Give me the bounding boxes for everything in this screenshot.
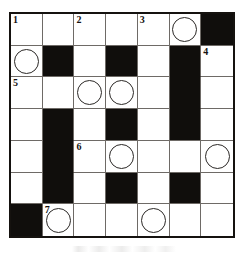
grid-cell[interactable] — [170, 204, 202, 236]
grid-cell[interactable] — [11, 46, 43, 78]
grid-cell-block — [201, 14, 233, 46]
circle-icon — [141, 208, 166, 233]
grid-cell[interactable] — [74, 204, 106, 236]
grid-cell[interactable] — [74, 109, 106, 141]
caption-smudge — [72, 246, 176, 252]
grid-cell-block — [11, 204, 43, 236]
grid-cell[interactable] — [201, 173, 233, 205]
grid-cell-block — [43, 109, 75, 141]
grid-cell[interactable]: 4 — [201, 46, 233, 78]
grid-cell-block — [170, 173, 202, 205]
crossword-grid[interactable]: 1234567 — [9, 12, 235, 238]
grid-cell[interactable]: 5 — [11, 77, 43, 109]
grid-cell[interactable] — [106, 77, 138, 109]
grid-cell[interactable] — [11, 109, 43, 141]
grid-cell[interactable] — [138, 141, 170, 173]
grid-cell-block — [170, 109, 202, 141]
grid-cell[interactable] — [74, 46, 106, 78]
cell-number: 2 — [76, 14, 81, 25]
grid-cell[interactable] — [74, 173, 106, 205]
grid-cell[interactable]: 6 — [74, 141, 106, 173]
cell-number: 1 — [13, 14, 18, 25]
cell-number: 4 — [203, 46, 208, 57]
grid-cell[interactable] — [138, 173, 170, 205]
grid-cell[interactable]: 3 — [138, 14, 170, 46]
grid-cell[interactable] — [201, 109, 233, 141]
circle-icon — [77, 80, 102, 105]
grid-cell[interactable] — [138, 77, 170, 109]
grid-cell[interactable]: 1 — [11, 14, 43, 46]
grid-cell-block — [106, 173, 138, 205]
grid-cell-block — [170, 77, 202, 109]
grid-cell-block — [43, 173, 75, 205]
grid-cell[interactable] — [106, 141, 138, 173]
grid-cell[interactable] — [43, 14, 75, 46]
grid-cell[interactable] — [170, 14, 202, 46]
grid-cell[interactable] — [201, 141, 233, 173]
circle-icon — [14, 49, 39, 74]
cell-number: 6 — [76, 141, 81, 152]
grid-cell-block — [106, 46, 138, 78]
circle-icon — [205, 144, 230, 169]
grid-cell[interactable] — [43, 77, 75, 109]
grid-cell[interactable] — [106, 204, 138, 236]
circle-icon — [109, 144, 134, 169]
grid-cell[interactable] — [170, 141, 202, 173]
circle-icon — [172, 17, 197, 42]
grid-cell[interactable] — [201, 77, 233, 109]
grid-cell-block — [43, 141, 75, 173]
grid-cell[interactable] — [138, 204, 170, 236]
grid-cell[interactable] — [138, 46, 170, 78]
grid-cell[interactable] — [11, 141, 43, 173]
cell-number: 7 — [45, 204, 50, 215]
grid-cell-block — [106, 109, 138, 141]
grid-cell-block — [170, 46, 202, 78]
cell-number: 3 — [140, 14, 145, 25]
grid-cell-block — [43, 46, 75, 78]
grid-cell[interactable] — [201, 204, 233, 236]
grid-cell[interactable] — [106, 14, 138, 46]
crossword-puzzle: 1234567 — [0, 0, 242, 256]
grid-cell[interactable]: 2 — [74, 14, 106, 46]
grid-cell[interactable]: 7 — [43, 204, 75, 236]
grid-cell[interactable] — [11, 173, 43, 205]
grid-cell[interactable] — [138, 109, 170, 141]
cell-number: 5 — [13, 77, 18, 88]
grid-cell[interactable] — [74, 77, 106, 109]
circle-icon — [109, 80, 134, 105]
